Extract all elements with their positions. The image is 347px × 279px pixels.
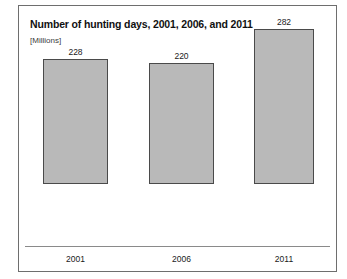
bar-value-label: 228 (43, 47, 108, 57)
bar-group-0: 228 2001 (43, 54, 108, 271)
bar-value-label: 220 (149, 51, 214, 61)
category-label-2006: 2006 (137, 254, 226, 264)
bar-2006[interactable] (149, 63, 214, 184)
bar-2001[interactable] (43, 59, 108, 184)
plot-area: 228 2001 220 2006 282 2011 (19, 54, 336, 271)
bar-group-2: 282 2011 (254, 54, 314, 271)
chart-figure: Number of hunting days, 2001, 2006, and … (18, 5, 337, 272)
category-label-2001: 2001 (31, 254, 120, 264)
bar-value-label: 282 (254, 17, 314, 27)
bar-group-1: 220 2006 (149, 54, 214, 271)
chart-title: Number of hunting days, 2001, 2006, and … (30, 18, 253, 30)
bar-2011[interactable] (254, 29, 314, 184)
chart-units-label: [Millions] (30, 36, 61, 45)
category-label-2011: 2011 (242, 254, 326, 264)
